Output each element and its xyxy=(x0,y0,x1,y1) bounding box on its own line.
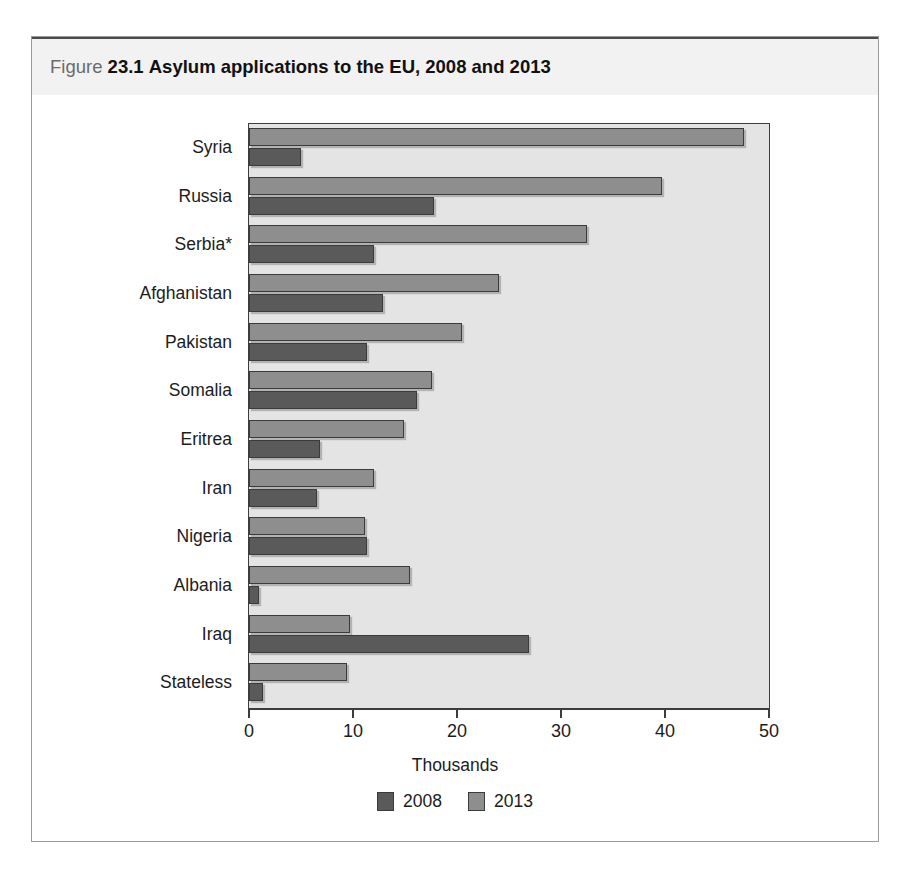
x-axis-tick-label: 50 xyxy=(759,721,779,742)
y-axis-label: Russia xyxy=(179,172,233,221)
figure-caption: Figure 23.1 Asylum applications to the E… xyxy=(50,56,551,78)
legend-item: 2008 xyxy=(377,791,442,812)
y-axis-label: Stateless xyxy=(160,658,232,707)
bar-2013 xyxy=(249,420,404,438)
x-axis-tick xyxy=(248,708,250,718)
figure-number: 23.1 xyxy=(108,56,144,77)
y-axis-label: Albania xyxy=(174,561,232,610)
bar-group xyxy=(249,367,769,416)
bar-2008 xyxy=(249,683,263,701)
x-axis-tick xyxy=(664,708,666,718)
bar-group xyxy=(249,173,769,222)
bar-group xyxy=(249,416,769,465)
x-axis-title: Thousands xyxy=(32,755,878,776)
bar-2008 xyxy=(249,440,320,458)
bar-2008 xyxy=(249,197,434,215)
legend-swatch-2013 xyxy=(468,792,485,811)
x-axis-tick-label: 20 xyxy=(447,721,467,742)
bar-2008 xyxy=(249,148,301,166)
bar-group xyxy=(249,124,769,173)
legend-swatch-2008 xyxy=(377,792,394,811)
bar-2013 xyxy=(249,323,462,341)
bar-group xyxy=(249,513,769,562)
y-axis-label: Nigeria xyxy=(177,512,232,561)
bar-2008 xyxy=(249,343,367,361)
y-axis-label: Afghanistan xyxy=(140,269,232,318)
bar-group xyxy=(249,659,769,708)
bar-group xyxy=(249,319,769,368)
y-axis-label: Syria xyxy=(192,123,232,172)
x-axis-tick xyxy=(560,708,562,718)
x-axis-tick-label: 10 xyxy=(343,721,363,742)
chart-legend: 20082013 xyxy=(32,791,878,812)
bar-2013 xyxy=(249,177,662,195)
y-axis-label: Eritrea xyxy=(180,415,232,464)
plot-region xyxy=(248,123,770,709)
bar-2013 xyxy=(249,566,410,584)
bar-2013 xyxy=(249,517,365,535)
bar-2013 xyxy=(249,274,499,292)
y-axis-label: Iran xyxy=(202,464,232,513)
y-axis-label: Serbia* xyxy=(175,220,232,269)
x-axis-tick xyxy=(352,708,354,718)
x-axis-line xyxy=(248,708,770,710)
bar-group xyxy=(249,221,769,270)
figure-header-band: Figure 23.1 Asylum applications to the E… xyxy=(32,37,878,95)
bar-group xyxy=(249,611,769,660)
bar-2013 xyxy=(249,615,350,633)
bar-2013 xyxy=(249,663,347,681)
bar-group xyxy=(249,465,769,514)
bar-2008 xyxy=(249,245,374,263)
bar-2008 xyxy=(249,489,317,507)
figure-title: Asylum applications to the EU, 2008 and … xyxy=(149,56,551,77)
bar-2008 xyxy=(249,537,367,555)
bar-2013 xyxy=(249,225,587,243)
x-axis-tick xyxy=(768,708,770,718)
x-axis-tick xyxy=(456,708,458,718)
x-axis-tick-label: 0 xyxy=(244,721,254,742)
x-axis-tick-label: 30 xyxy=(551,721,571,742)
bar-2008 xyxy=(249,586,259,604)
x-axis-tick-label: 40 xyxy=(655,721,675,742)
bar-2008 xyxy=(249,635,529,653)
y-axis-label: Somalia xyxy=(169,366,232,415)
bar-group xyxy=(249,270,769,319)
legend-label: 2008 xyxy=(403,791,442,812)
y-axis-label: Iraq xyxy=(202,610,232,659)
bar-group xyxy=(249,562,769,611)
figure-label-word: Figure xyxy=(50,56,102,77)
bar-2013 xyxy=(249,469,374,487)
bar-2008 xyxy=(249,391,417,409)
y-axis-label: Pakistan xyxy=(165,318,232,367)
y-axis-category-labels: SyriaRussiaSerbia*AfghanistanPakistanSom… xyxy=(32,123,240,707)
bar-2008 xyxy=(249,294,383,312)
bar-rows xyxy=(249,124,769,708)
chart-area: SyriaRussiaSerbia*AfghanistanPakistanSom… xyxy=(32,95,878,841)
legend-label: 2013 xyxy=(494,791,533,812)
bar-2013 xyxy=(249,128,744,146)
figure-container: Figure 23.1 Asylum applications to the E… xyxy=(31,36,879,842)
legend-item: 2013 xyxy=(468,791,533,812)
bar-2013 xyxy=(249,371,432,389)
